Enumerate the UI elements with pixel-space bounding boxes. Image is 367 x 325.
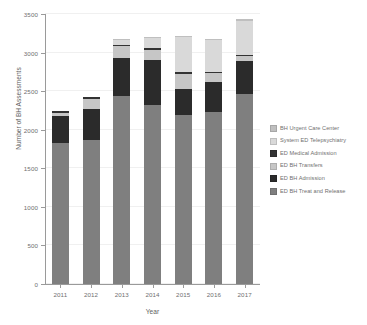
bar-2014 — [144, 37, 161, 284]
y-tick-label: 0 — [8, 281, 38, 288]
y-tick-label: 1500 — [8, 165, 38, 172]
legend-swatch-icon — [270, 138, 277, 145]
x-tick-mark — [245, 284, 246, 288]
legend-label: BH Urgent Care Center — [280, 126, 339, 132]
legend-label: ED BH Treat and Release — [280, 189, 346, 195]
legend-swatch-icon — [270, 150, 277, 157]
x-tick-mark — [183, 284, 184, 288]
legend-item: ED BH Treat and Release — [270, 188, 366, 195]
x-tick-mark — [122, 284, 123, 288]
y-axis-line — [45, 14, 46, 284]
bar-segment — [205, 73, 222, 81]
x-tick-mark — [214, 284, 215, 288]
y-tick-mark — [41, 14, 45, 15]
bar-segment — [175, 89, 192, 116]
bar-segment — [83, 109, 100, 141]
bar-segment — [144, 50, 161, 59]
x-tick-mark — [91, 284, 92, 288]
stacked-bar-chart: 0500100015002000250030003500 20112012201… — [0, 0, 367, 325]
x-tick-mark — [60, 284, 61, 288]
x-axis-title: Year — [45, 308, 260, 315]
bar-segment — [236, 61, 253, 94]
bar-2012 — [83, 97, 100, 284]
legend-label: ED BH Transfers — [280, 163, 323, 169]
y-axis-title: Number of BH Assessments — [15, 39, 22, 179]
x-tick-mark — [153, 284, 154, 288]
legend-item: BH Urgent Care Center — [270, 125, 366, 132]
plot-area — [45, 14, 260, 284]
y-tick-label: 1000 — [8, 203, 38, 210]
y-tick-label: 2500 — [8, 88, 38, 95]
bar-segment — [144, 60, 161, 106]
y-tick-mark — [41, 284, 45, 285]
bar-2011 — [52, 111, 69, 284]
bar-segment — [52, 116, 69, 143]
bar-segment — [113, 46, 130, 58]
y-tick-label: 3500 — [8, 11, 38, 18]
x-tick-label: 2017 — [225, 291, 265, 298]
y-tick-mark — [41, 245, 45, 246]
bar-segment — [205, 82, 222, 112]
y-tick-mark — [41, 53, 45, 54]
chart-legend: BH Urgent Care CenterSystem ED Telepsych… — [270, 125, 366, 201]
bar-segment — [144, 105, 161, 284]
gridline — [45, 13, 260, 14]
legend-label: System ED Telepsychiatry — [280, 138, 346, 144]
bar-segment — [175, 37, 192, 72]
legend-item: ED Medical Admission — [270, 150, 366, 157]
bar-2016 — [205, 39, 222, 284]
bar-2017 — [236, 19, 253, 284]
bar-segment — [113, 58, 130, 96]
bar-segment — [83, 99, 100, 109]
y-tick-label: 2000 — [8, 126, 38, 133]
legend-label: ED Medical Admission — [280, 151, 337, 157]
bar-2013 — [113, 39, 130, 284]
y-tick-mark — [41, 207, 45, 208]
bar-segment — [205, 40, 222, 71]
bar-segment — [83, 140, 100, 284]
legend-label: ED BH Admission — [280, 176, 325, 182]
y-tick-mark — [41, 91, 45, 92]
bar-segment — [113, 96, 130, 284]
y-tick-label: 3000 — [8, 49, 38, 56]
y-tick-mark — [41, 168, 45, 169]
bar-2015 — [175, 36, 192, 284]
bar-segment — [236, 21, 253, 55]
y-tick-mark — [41, 130, 45, 131]
bar-segment — [205, 112, 222, 284]
legend-item: ED BH Admission — [270, 175, 366, 182]
legend-item: System ED Telepsychiatry — [270, 138, 366, 145]
bar-segment — [144, 38, 161, 48]
legend-swatch-icon — [270, 125, 277, 132]
bar-segment — [236, 94, 253, 284]
bar-segment — [52, 143, 69, 284]
legend-swatch-icon — [270, 188, 277, 195]
legend-item: ED BH Transfers — [270, 163, 366, 170]
y-tick-label: 500 — [8, 242, 38, 249]
legend-swatch-icon — [270, 175, 277, 182]
bar-segment — [175, 74, 192, 89]
bar-segment — [175, 115, 192, 284]
legend-swatch-icon — [270, 163, 277, 170]
